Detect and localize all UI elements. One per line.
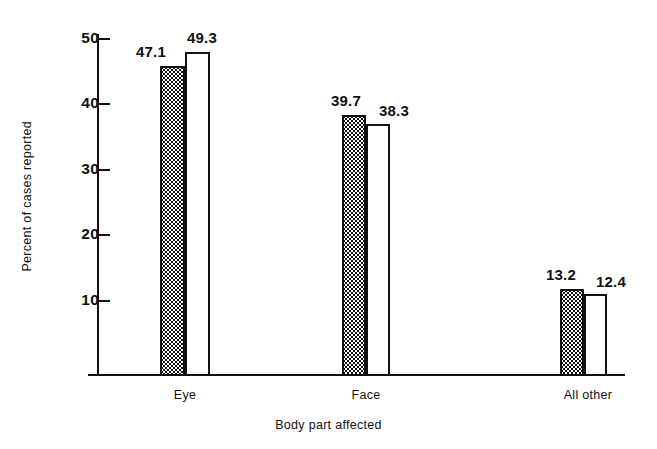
bar-eye-series-2 xyxy=(185,52,210,376)
bar-chart: 50 40 30 20 10 Percent of cases reported… xyxy=(0,0,657,449)
y-tick-mark xyxy=(99,300,110,302)
bar-face-series-1 xyxy=(342,115,366,376)
bar-all-other-series-1 xyxy=(560,289,584,376)
bar-value-all-other-series-1: 13.2 xyxy=(546,267,576,282)
category-label-all-other: All other xyxy=(564,389,613,402)
bar-value-eye-series-1: 47.1 xyxy=(136,44,166,59)
y-tick-label-50: 50 xyxy=(61,30,99,46)
y-tick-label-30: 30 xyxy=(61,161,99,177)
bar-value-face-series-1: 39.7 xyxy=(331,93,361,108)
y-tick-mark xyxy=(99,234,110,236)
y-tick-label-20: 20 xyxy=(61,226,99,242)
y-axis-title: Percent of cases reported xyxy=(21,81,34,311)
bar-value-face-series-2: 38.3 xyxy=(379,103,409,118)
y-tick-mark xyxy=(99,169,110,171)
bar-value-all-other-series-2: 12.4 xyxy=(596,274,626,289)
bar-all-other-series-2 xyxy=(584,294,607,376)
y-axis-line xyxy=(97,34,99,376)
category-label-eye: Eye xyxy=(174,389,196,402)
y-tick-mark xyxy=(99,103,110,105)
category-label-face: Face xyxy=(352,389,381,402)
y-tick-label-10: 10 xyxy=(61,292,99,308)
y-tick-label-40: 40 xyxy=(61,95,99,111)
x-axis-title: Body part affected xyxy=(0,418,657,432)
bar-eye-series-1 xyxy=(160,66,185,376)
y-tick-mark xyxy=(99,38,110,40)
bar-value-eye-series-2: 49.3 xyxy=(187,30,217,45)
bar-face-series-2 xyxy=(366,124,390,376)
